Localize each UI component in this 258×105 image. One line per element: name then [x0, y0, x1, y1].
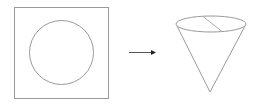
- square-sheet-with-circle: [15, 8, 109, 99]
- arrow: [129, 50, 156, 55]
- cone-left-side: [177, 26, 210, 92]
- cone: [176, 16, 246, 92]
- circle: [30, 21, 94, 85]
- cone-base: [176, 16, 246, 32]
- cone-seam: [203, 17, 222, 32]
- arrow-head-icon: [151, 50, 156, 55]
- cone-right-side: [210, 26, 245, 92]
- diagram-canvas: [0, 0, 258, 105]
